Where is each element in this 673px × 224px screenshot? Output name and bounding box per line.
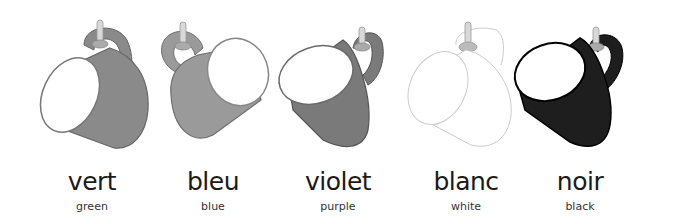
mug-card-bleu: bleu blue [143,0,283,224]
word-french: bleu [143,167,283,196]
word-english: green [22,200,162,213]
mug-card-violet: violet purple [268,0,408,224]
mug-noir-icon [510,0,650,165]
word-french: violet [268,167,408,196]
word-french: noir [510,167,650,196]
mug-vert-icon [22,0,162,165]
mug-card-vert: vert green [22,0,162,224]
word-english: purple [268,200,408,213]
word-english: black [510,200,650,213]
mug-card-noir: noir black [510,0,650,224]
word-english: blue [143,200,283,213]
mug-bleu-icon [143,0,283,165]
mug-violet-icon [268,0,408,165]
word-french: vert [22,167,162,196]
